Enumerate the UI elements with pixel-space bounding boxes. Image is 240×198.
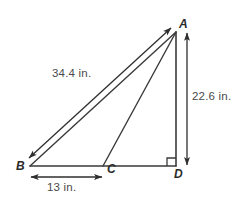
vertex-label-a: A [179,18,188,30]
vertex-label-b: B [16,160,25,172]
segment-side-AB [30,32,176,166]
dimension-label-bc: 13 in. [47,182,76,194]
dimension-line-AB [29,28,171,158]
segment-cevian-AC [103,32,176,166]
geometry-figure: A B C D 34.4 in. 22.6 in. 13 in. [0,0,240,198]
vertex-label-d: D [174,168,183,180]
right-angle-marker-D [167,158,176,166]
dimension-label-ab: 34.4 in. [52,68,91,80]
dimension-label-ad: 22.6 in. [192,91,231,103]
vertex-label-c: C [107,163,116,175]
